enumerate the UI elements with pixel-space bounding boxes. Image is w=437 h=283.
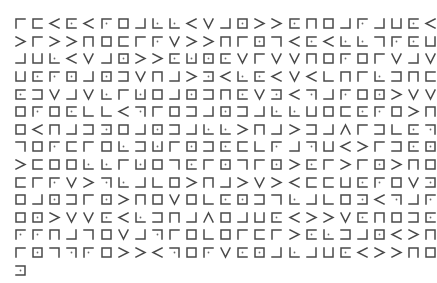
pigpen-glyph-corner-br-icon (405, 191, 422, 209)
pigpen-glyph-open-bottom-icon (217, 33, 234, 51)
cipher-row (12, 191, 437, 209)
pigpen-glyph-corner-bl-dotted-icon (217, 121, 234, 139)
pigpen-glyph-corner-tl-dotted-icon (268, 138, 285, 156)
pigpen-glyph-left-angle-shape-icon (217, 68, 234, 86)
pigpen-glyph-box-icon (422, 244, 437, 262)
pigpen-glyph-box-dotted-icon (268, 156, 285, 174)
pigpen-glyph-right-angle-shape-icon (132, 244, 149, 262)
pigpen-glyph-box-icon (337, 191, 354, 209)
pigpen-glyph-corner-tl-icon (354, 68, 371, 86)
pigpen-glyph-corner-bl-dotted-icon (97, 85, 114, 103)
pigpen-glyph-open-bottom-icon (405, 68, 422, 86)
pigpen-glyph-corner-bl-dotted-icon (115, 138, 132, 156)
pigpen-glyph-corner-br-icon (286, 138, 303, 156)
pigpen-glyph-box-icon (422, 156, 437, 174)
pigpen-glyph-v-shape-icon (405, 85, 422, 103)
pigpen-glyph-open-left-icon (63, 191, 80, 209)
cipher-row (12, 50, 437, 68)
pigpen-glyph-box-icon (46, 156, 63, 174)
pigpen-glyph-corner-tr-dotted-icon (97, 173, 114, 191)
pigpen-glyph-corner-tl-icon (115, 85, 132, 103)
pigpen-glyph-corner-bl-dotted-icon (166, 15, 183, 33)
pigpen-glyph-open-bottom-icon (337, 68, 354, 86)
pigpen-glyph-v-shape-icon (80, 209, 97, 227)
pigpen-glyph-open-right-dotted-icon (354, 103, 371, 121)
pigpen-glyph-open-right-icon (115, 33, 132, 51)
pigpen-glyph-open-bottom-icon (371, 209, 388, 227)
pigpen-glyph-open-right-dotted-icon (166, 50, 183, 68)
pigpen-glyph-box-icon (149, 191, 166, 209)
pigpen-glyph-corner-br-icon (183, 121, 200, 139)
pigpen-glyph-open-top-icon (12, 68, 29, 86)
pigpen-glyph-open-right-dotted-icon (29, 68, 46, 86)
pigpen-glyph-open-left-icon (388, 138, 405, 156)
pigpen-glyph-box-dotted-icon (234, 15, 251, 33)
pigpen-glyph-left-angle-shape-icon (183, 15, 200, 33)
pigpen-glyph-open-right-dotted-icon (337, 244, 354, 262)
pigpen-glyph-open-bottom-icon (405, 244, 422, 262)
pigpen-glyph-corner-br-icon (63, 85, 80, 103)
cipher-row (12, 173, 437, 191)
pigpen-glyph-open-right-dotted-icon (63, 15, 80, 33)
pigpen-glyph-open-right-dotted-icon (303, 226, 320, 244)
pigpen-glyph-corner-tl-icon (251, 156, 268, 174)
pigpen-glyph-right-angle-shape-icon (200, 33, 217, 51)
pigpen-glyph-corner-bl-dotted-icon (286, 103, 303, 121)
pigpen-glyph-open-top-dotted-icon (132, 85, 149, 103)
pigpen-glyph-corner-bl-icon (320, 68, 337, 86)
pigpen-glyph-open-top-icon (422, 33, 437, 51)
pigpen-glyph-corner-br-icon (303, 191, 320, 209)
cipher-row (12, 261, 437, 279)
pigpen-glyph-left-angle-shape-icon (46, 15, 63, 33)
cipher-row (12, 33, 437, 51)
pigpen-glyph-open-left-icon (200, 85, 217, 103)
pigpen-glyph-open-bottom-icon (46, 121, 63, 139)
pigpen-glyph-box-dotted-icon (149, 121, 166, 139)
pigpen-glyph-open-left-dotted-icon (422, 173, 437, 191)
pigpen-glyph-right-angle-shape-icon (132, 50, 149, 68)
cipher-row (12, 121, 437, 139)
pigpen-glyph-corner-br-icon (63, 226, 80, 244)
pigpen-glyph-corner-tl-icon (234, 33, 251, 51)
pigpen-glyph-box-dotted-icon (371, 226, 388, 244)
cipher-row (12, 85, 437, 103)
pigpen-glyph-box-icon (183, 191, 200, 209)
pigpen-glyph-open-right-dotted-icon (405, 15, 422, 33)
pigpen-glyph-open-top-icon (320, 138, 337, 156)
pigpen-glyph-corner-br-icon (80, 68, 97, 86)
pigpen-glyph-box-dotted-icon (29, 209, 46, 227)
pigpen-glyph-open-bottom-icon (80, 33, 97, 51)
pigpen-glyph-left-angle-shape-icon (337, 138, 354, 156)
pigpen-glyph-open-right-dotted-icon (63, 103, 80, 121)
pigpen-glyph-open-right-icon (320, 173, 337, 191)
pigpen-glyph-box-dotted-icon (97, 68, 114, 86)
pigpen-glyph-box-dotted-icon (217, 103, 234, 121)
pigpen-glyph-open-left-icon (80, 121, 97, 139)
pigpen-glyph-open-left-icon (388, 68, 405, 86)
pigpen-glyph-box-icon (166, 103, 183, 121)
pigpen-glyph-corner-tl-dotted-icon (80, 244, 97, 262)
pigpen-glyph-box-icon (354, 85, 371, 103)
pigpen-glyph-corner-br-icon (29, 191, 46, 209)
cipher-row (12, 244, 437, 262)
pigpen-glyph-box-dotted-icon (115, 50, 132, 68)
cipher-row (12, 209, 437, 227)
pigpen-glyph-open-left-icon (149, 209, 166, 227)
pigpen-glyph-v-shape-icon (234, 50, 251, 68)
pigpen-glyph-v-shape-icon (115, 226, 132, 244)
pigpen-glyph-open-bottom-icon (303, 15, 320, 33)
pigpen-glyph-v-shape-icon (422, 85, 437, 103)
pigpen-glyph-box-icon (12, 209, 29, 227)
pigpen-glyph-left-angle-shape-icon (29, 121, 46, 139)
pigpen-glyph-corner-tr-dotted-icon (166, 244, 183, 262)
pigpen-glyph-left-angle-shape-icon (303, 68, 320, 86)
pigpen-glyph-corner-bl-dotted-icon (268, 103, 285, 121)
cipher-row (12, 15, 437, 33)
pigpen-glyph-corner-br-icon (63, 121, 80, 139)
pigpen-glyph-corner-tl-dotted-icon (371, 173, 388, 191)
pigpen-glyph-right-angle-shape-icon (337, 156, 354, 174)
pigpen-glyph-v-shape-icon (166, 191, 183, 209)
pigpen-glyph-corner-bl-dotted-icon (80, 156, 97, 174)
pigpen-glyph-corner-br-icon (268, 244, 285, 262)
pigpen-glyph-v-shape-icon (251, 173, 268, 191)
